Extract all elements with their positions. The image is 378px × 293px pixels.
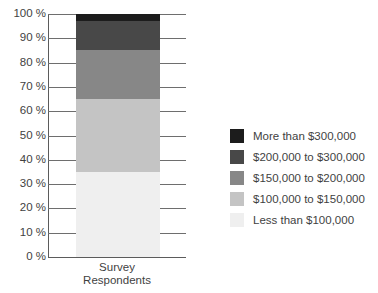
y-axis-tick-label: 70 %	[2, 80, 46, 92]
x-axis-label: Survey Respondents	[48, 261, 186, 287]
chart-title-cropped	[0, 0, 378, 7]
legend-swatch	[230, 129, 244, 143]
legend-swatch	[230, 150, 244, 164]
y-axis-tick-label: 100 %	[2, 7, 46, 19]
y-axis-tick-label: 20 %	[2, 201, 46, 213]
legend-swatch	[230, 171, 244, 185]
y-axis-tick-label: 10 %	[2, 226, 46, 238]
legend-swatch	[230, 213, 244, 227]
legend-label: $100,000 to $150,000	[253, 193, 365, 205]
x-axis-line	[48, 257, 186, 258]
plot-area	[48, 14, 186, 258]
stacked-bar-chart: 100 %90 %80 %70 %60 %50 %40 %30 %20 %10 …	[0, 0, 378, 293]
y-axis-tick-label: 0 %	[2, 250, 46, 262]
legend-label: Less than $100,000	[253, 214, 354, 226]
legend-item: Less than $100,000	[230, 209, 378, 230]
legend-label: $150,000 to $200,000	[253, 172, 365, 184]
legend-item: More than $300,000	[230, 125, 378, 146]
legend-swatch	[230, 192, 244, 206]
y-axis-tick-label: 80 %	[2, 56, 46, 68]
y-axis-tick-label: 30 %	[2, 177, 46, 189]
x-axis-label-line2: Respondents	[48, 274, 186, 287]
legend-label: More than $300,000	[253, 130, 356, 142]
bar-segment	[76, 172, 160, 257]
bar-segment	[76, 50, 160, 99]
x-axis-label-line1: Survey	[48, 261, 186, 274]
legend-item: $200,000 to $300,000	[230, 146, 378, 167]
y-axis-tick-label: 40 %	[2, 153, 46, 165]
y-axis-tick-label: 50 %	[2, 129, 46, 141]
legend-item: $150,000 to $200,000	[230, 167, 378, 188]
y-axis-tick-label: 90 %	[2, 31, 46, 43]
y-axis-tick-label: 60 %	[2, 104, 46, 116]
chart-legend: More than $300,000$200,000 to $300,000$1…	[230, 125, 378, 230]
bar-segment	[76, 99, 160, 172]
bar-segment	[76, 21, 160, 50]
legend-label: $200,000 to $300,000	[253, 151, 365, 163]
bar-segment	[76, 14, 160, 21]
stacked-bar-column	[76, 14, 160, 257]
legend-item: $100,000 to $150,000	[230, 188, 378, 209]
